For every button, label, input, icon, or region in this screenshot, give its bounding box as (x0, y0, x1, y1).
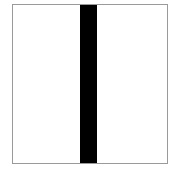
square-frame (12, 4, 168, 164)
vertical-black-bar (80, 5, 97, 163)
